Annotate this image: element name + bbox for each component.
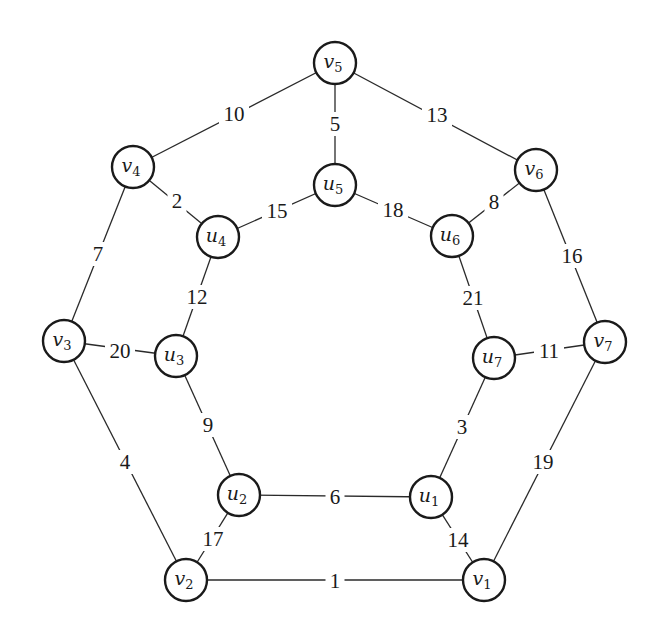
weight-label: 7 xyxy=(93,242,104,266)
edge-weight: 15 xyxy=(262,199,292,223)
node-v2: v2 xyxy=(165,559,207,601)
node-v5: v5 xyxy=(314,42,356,84)
weight-label: 6 xyxy=(330,485,341,509)
weight-label: 13 xyxy=(427,103,448,127)
graph-diagram: 123456789101112131415161718192021 v1v2v3… xyxy=(0,0,665,642)
edge-weight: 17 xyxy=(198,527,228,551)
edge-weight: 1 xyxy=(326,569,345,593)
node-u2: u2 xyxy=(218,474,260,516)
edge-weight: 19 xyxy=(528,450,558,474)
weight-label: 2 xyxy=(172,189,183,213)
edge-weight: 2 xyxy=(168,189,187,213)
weight-label: 3 xyxy=(457,415,468,439)
node-v4: v4 xyxy=(112,146,154,188)
edge-weight: 7 xyxy=(89,242,108,266)
edge-weight: 5 xyxy=(326,112,345,136)
edge-weight: 4 xyxy=(116,450,135,474)
weight-label: 5 xyxy=(330,112,341,136)
weight-label: 21 xyxy=(463,286,484,310)
edge-weight: 16 xyxy=(557,244,587,268)
node-u1: u1 xyxy=(410,476,452,518)
weight-label: 18 xyxy=(383,198,404,222)
edge-weight: 6 xyxy=(326,485,345,509)
edge-weight: 9 xyxy=(199,413,218,437)
node-u5: u5 xyxy=(314,164,356,206)
weight-label: 1 xyxy=(330,569,341,593)
node-v1: v1 xyxy=(463,559,505,601)
weight-label: 17 xyxy=(203,527,224,551)
edge-weight: 8 xyxy=(485,190,504,214)
weight-label: 8 xyxy=(489,190,500,214)
node-v7: v7 xyxy=(584,321,626,363)
weight-label: 10 xyxy=(224,102,245,126)
weight-label: 11 xyxy=(539,339,559,363)
node-u4: u4 xyxy=(197,216,239,258)
node-u7: u7 xyxy=(473,337,515,379)
weight-label: 4 xyxy=(120,450,131,474)
edge-weight: 12 xyxy=(182,285,212,309)
weight-label: 20 xyxy=(110,339,131,363)
weight-label: 12 xyxy=(187,285,208,309)
edge-weight: 10 xyxy=(219,102,249,126)
edge-weight: 13 xyxy=(422,103,452,127)
edge-weight: 3 xyxy=(453,415,472,439)
edge-weight: 14 xyxy=(443,528,473,552)
weight-label: 9 xyxy=(203,413,214,437)
edge-weight: 11 xyxy=(534,339,564,363)
weight-label: 14 xyxy=(448,528,470,552)
weight-label: 16 xyxy=(562,244,583,268)
edge-weight: 18 xyxy=(378,198,408,222)
edge-weight: 20 xyxy=(105,339,135,363)
weight-label: 19 xyxy=(533,450,554,474)
node-u6: u6 xyxy=(431,215,473,257)
node-v6: v6 xyxy=(515,149,557,191)
edge-weight: 21 xyxy=(458,286,488,310)
weight-label: 15 xyxy=(267,199,288,223)
node-u3: u3 xyxy=(155,335,197,377)
node-v3: v3 xyxy=(43,320,85,362)
